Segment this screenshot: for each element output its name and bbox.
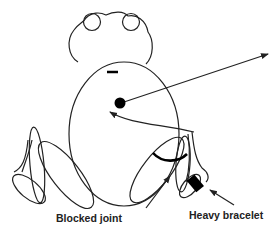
- return-arrow: [110, 112, 194, 132]
- blocked-joint-pointer: [146, 176, 170, 208]
- left-foot: [8, 169, 50, 209]
- blocked-joint-label: Blocked joint: [56, 212, 122, 224]
- center-of-mass-dot: [115, 98, 126, 109]
- left-eye: [84, 14, 101, 31]
- frog-diagram: [0, 0, 277, 234]
- heavy-bracelet-label: Heavy bracelet: [189, 209, 263, 221]
- left-shin: [27, 127, 48, 204]
- bracelet-pointer: [210, 190, 234, 205]
- right-thigh: [121, 130, 192, 210]
- force-arrow: [121, 54, 268, 103]
